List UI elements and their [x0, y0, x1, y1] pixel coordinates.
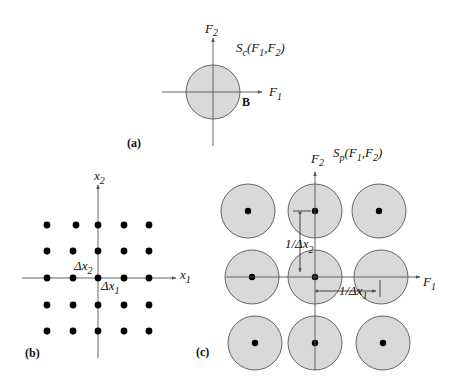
f1-axis-label: F1 [268, 84, 282, 102]
sample-dot [146, 302, 153, 309]
sample-dot [70, 248, 77, 255]
sample-dot [146, 275, 153, 282]
x2-axis-label: x2 [93, 168, 105, 186]
sample-dot [70, 302, 77, 309]
panel-c: 1/Δx2 1/Δx1 F2 F1 Sp(F1,F2) (c) [196, 145, 436, 370]
panel-b-label: (b) [25, 346, 40, 360]
sample-dot [146, 222, 153, 229]
delta-x2-label: Δx2 [73, 258, 92, 276]
sample-dot [44, 328, 51, 335]
sample-dot [121, 328, 128, 335]
figure-canvas: F2 F1 Sc(F1,F2) B (a) [0, 0, 458, 386]
center-dot [380, 340, 386, 346]
center-dot [252, 340, 258, 346]
diagram-svg: F2 F1 Sc(F1,F2) B (a) [0, 0, 458, 386]
panel-b: x2 x1 Δx2 Δx1 (b) [22, 168, 191, 360]
sample-dot [95, 248, 102, 255]
sample-dot [121, 248, 128, 255]
sample-dot [44, 222, 51, 229]
sample-dot [95, 328, 102, 335]
center-dot [245, 208, 251, 214]
panel-a: F2 F1 Sc(F1,F2) B (a) [127, 21, 285, 150]
period2-label: 1/Δx2 [285, 236, 314, 255]
delta-x1-label: Δx1 [100, 278, 119, 296]
sample-dot [44, 302, 51, 309]
bandwidth-b-label: B [242, 95, 250, 109]
sample-dot [146, 248, 153, 255]
sample-dot [121, 302, 128, 309]
f2-axis-label: F2 [310, 151, 324, 168]
sample-dot [121, 275, 128, 282]
panel-c-label: (c) [196, 345, 209, 359]
sample-dot [44, 275, 51, 282]
center-dot [376, 208, 382, 214]
spectrum-sp-label: Sp(F1,F2) [333, 145, 382, 163]
panel-a-label: (a) [127, 136, 141, 150]
sample-dot [95, 302, 102, 309]
x1-axis-label: x1 [179, 267, 191, 285]
sample-dot [44, 248, 51, 255]
sample-dot [95, 222, 102, 229]
sample-dot [70, 275, 77, 282]
sample-dot [73, 222, 80, 229]
spectrum-sc-label: Sc(F1,F2) [236, 40, 285, 58]
f2-axis-label: F2 [204, 21, 218, 38]
sample-dot [146, 328, 153, 335]
sample-dot [70, 328, 77, 335]
f1-axis-label: F1 [422, 274, 436, 292]
sample-dot [121, 222, 128, 229]
